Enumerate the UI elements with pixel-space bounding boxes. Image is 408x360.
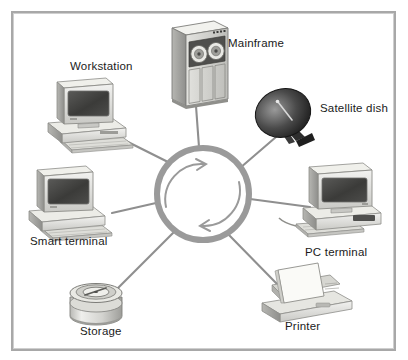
satellite-dish-icon bbox=[249, 82, 317, 147]
device-icons bbox=[0, 0, 408, 360]
workstation-icon bbox=[48, 78, 133, 153]
label-satellite-dish: Satellite dish bbox=[320, 102, 388, 114]
diagram-canvas: Workstation Mainframe Satellite dish PC … bbox=[0, 0, 408, 360]
label-pc-terminal: PC terminal bbox=[305, 246, 367, 258]
printer-icon bbox=[262, 263, 352, 322]
label-storage: Storage bbox=[80, 325, 122, 337]
disk-pack-icon bbox=[70, 284, 122, 326]
label-mainframe: Mainframe bbox=[228, 37, 284, 49]
label-workstation: Workstation bbox=[70, 60, 133, 72]
pc-terminal-icon bbox=[279, 163, 381, 237]
mainframe-icon bbox=[172, 21, 228, 109]
smart-terminal-icon bbox=[29, 166, 112, 241]
label-printer: Printer bbox=[285, 320, 320, 332]
label-smart-terminal: Smart terminal bbox=[30, 235, 108, 247]
